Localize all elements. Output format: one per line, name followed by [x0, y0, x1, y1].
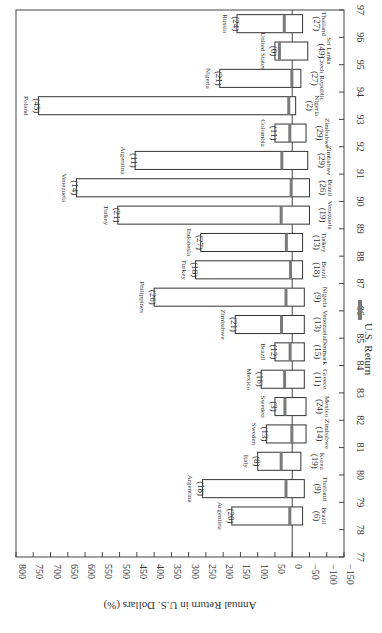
us-return-marker	[288, 507, 291, 525]
best-country-label: Mexico	[245, 369, 253, 391]
us-return-marker	[284, 288, 287, 306]
us-return-marker	[290, 69, 293, 87]
best-rank-label: (18)	[190, 262, 200, 277]
year-tick-label: 92	[355, 142, 366, 152]
us-return-marker	[280, 315, 283, 333]
best-rank-label: (27)	[195, 235, 205, 250]
value-tick-label: 350	[172, 564, 183, 579]
range-bar	[220, 69, 301, 87]
value-tick-label: 700	[52, 564, 63, 579]
year-tick-label: 77	[355, 552, 366, 562]
best-rank-label: (16)	[255, 372, 265, 387]
best-country-label: United States	[259, 32, 267, 70]
year-tick-label: 82	[355, 415, 366, 425]
us-return-marker	[287, 97, 290, 115]
best-rank-label: (8)	[252, 456, 262, 467]
value-tick-label: 200	[224, 564, 235, 579]
worst-country-label: Mexico	[323, 396, 331, 418]
legend-label-us-return: U.S. Return	[363, 323, 375, 376]
year-tick-label: 80	[355, 470, 366, 480]
us-return-marker	[285, 233, 288, 251]
range-bar	[154, 288, 304, 306]
worst-country-label: Brazil	[326, 179, 334, 196]
best-country-label: Philippines	[138, 281, 146, 313]
value-tick-label: 100	[259, 564, 270, 579]
us-return-marker	[289, 261, 292, 279]
best-rank-label: (21)	[112, 208, 122, 223]
worst-country-label: Thailand	[321, 476, 329, 501]
worst-country-label: Zimbabwe	[325, 145, 333, 175]
worst-country-label: Brazil	[320, 261, 328, 278]
best-country-label: Italy	[242, 455, 250, 468]
us-return-marker	[288, 124, 291, 142]
best-rank-label: (3)	[269, 401, 279, 412]
value-tick-label: 800	[17, 564, 28, 579]
best-rank-label: (18)	[196, 481, 206, 496]
value-tick-label: 300	[190, 564, 201, 579]
best-country-label: Turkey	[180, 260, 188, 280]
range-bar	[232, 507, 303, 525]
us-return-marker	[284, 480, 287, 498]
value-tick-label: 0	[293, 564, 304, 569]
worst-country-label: Brazil	[320, 507, 328, 524]
best-country-label: Indonesia	[185, 229, 193, 257]
year-tick-label: 96	[355, 32, 366, 42]
value-tick-label: 500	[121, 564, 132, 579]
range-bar	[76, 179, 309, 197]
best-country-label: Russia	[221, 14, 229, 34]
best-country-label: Colombia	[259, 119, 267, 148]
worst-country-label: Korea	[318, 453, 326, 471]
bars	[38, 15, 309, 525]
us-return-marker	[280, 452, 283, 470]
year-tick-label: 93	[355, 114, 366, 124]
value-tick-label: 650	[69, 564, 80, 579]
us-return-marker	[290, 179, 293, 197]
value-tick-label: 400	[155, 564, 166, 579]
us-return-marker	[280, 151, 283, 169]
range-bar	[261, 370, 304, 388]
worst-country-label: Venezuela	[321, 310, 329, 340]
best-country-label: Sweden	[259, 395, 267, 418]
year-tick-label: 78	[355, 525, 366, 535]
range-bar	[202, 480, 304, 498]
best-country-label: Argentina	[119, 146, 127, 175]
us-return-marker	[283, 398, 286, 416]
best-rank-label: (24)	[231, 16, 241, 31]
best-rank-label: (26)	[148, 290, 158, 305]
best-country-label: Zimbabwe	[219, 310, 227, 340]
year-tick-label: 87	[355, 279, 366, 289]
worst-country-label: Thailand	[320, 11, 328, 36]
range-bar	[237, 15, 303, 33]
best-country-label: Venezuela	[60, 173, 68, 203]
best-country-label: Argentina	[216, 502, 224, 531]
year-tick-label: 90	[355, 196, 366, 206]
best-country-label: Argentina	[186, 475, 194, 504]
value-tick-label: −100	[328, 564, 339, 585]
best-rank-label: (13)	[260, 426, 270, 441]
us-return-marker	[283, 370, 286, 388]
value-tick-label: 550	[103, 564, 114, 579]
best-country-label: Poland	[22, 96, 30, 116]
range-bar	[38, 97, 295, 115]
worst-country-label: Turkey	[320, 232, 328, 252]
worst-country-label: Sri Lanka	[325, 37, 333, 65]
value-tick-label: 50	[276, 564, 287, 574]
range-bar	[258, 452, 301, 470]
year-tick-label: 95	[355, 60, 366, 70]
plot-area	[16, 10, 344, 557]
value-tick-label: −150	[345, 564, 356, 585]
year-tick-label: 94	[355, 87, 366, 97]
best-rank-label: (11)	[269, 126, 279, 141]
year-tick-label: 88	[355, 251, 366, 261]
best-rank-label: (21)	[229, 317, 239, 332]
us-return-marker	[289, 343, 292, 361]
value-tick-label: 450	[138, 564, 149, 579]
value-tick-label: −50	[310, 564, 321, 580]
value-tick-label: 250	[207, 564, 218, 579]
best-rank-label: (45)	[32, 98, 42, 113]
best-country-label: Nigeria	[204, 68, 212, 90]
year-tick-label: 89	[355, 224, 366, 234]
best-country-label: Sweden	[250, 423, 258, 446]
worst-country-label: Nigeria	[321, 287, 329, 309]
plot-frame	[16, 10, 344, 557]
